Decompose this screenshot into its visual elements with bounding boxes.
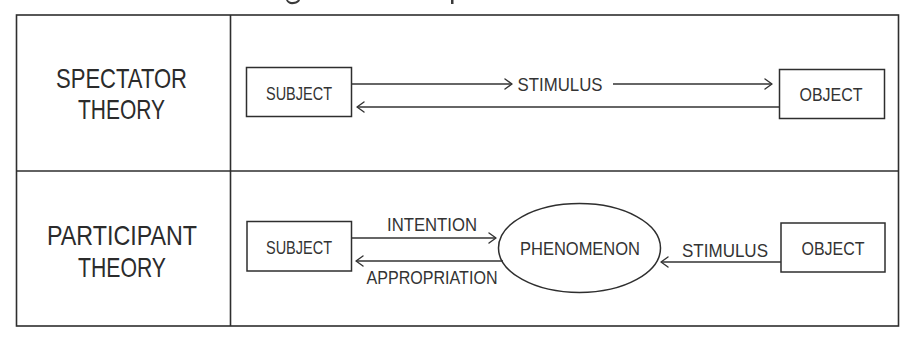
edge-label-stimulus: STIMULUS [518,75,603,95]
edge-label-stimulus: STIMULUS [682,241,768,261]
phenomenon-label: PHENOMENON [520,238,640,259]
object-label: OBJECT [800,84,863,105]
node-subject: SUBJECT [247,222,352,272]
row-label-spectator: SPECTATOR THEORY [56,63,187,125]
cropped-title-fragment [286,0,454,4]
object-label: OBJECT [802,238,865,259]
subject-label: SUBJECT [266,83,332,104]
arrow-object-to-subject [357,102,780,112]
arrow-stimulus: STIMULUS [661,241,781,267]
arrow-appropriation: APPROPRIATION [356,256,503,288]
row-label-participant: PARTICIPANT THEORY [47,220,197,283]
row-label-line2: THEORY [78,252,166,283]
theory-comparison-diagram: SPECTATOR THEORY SUBJECT OBJECT STIMULUS [0,0,915,343]
row-spectator-theory: SPECTATOR THEORY SUBJECT OBJECT STIMULUS [56,63,885,125]
node-phenomenon: PHENOMENON [499,204,661,293]
arrow-intention: INTENTION [352,215,497,243]
node-subject: SUBJECT [247,68,352,117]
row-label-line1: SPECTATOR [56,63,187,94]
edge-label-intention: INTENTION [387,215,477,235]
arrow-subject-to-object: STIMULUS [352,75,773,95]
row-participant-theory: PARTICIPANT THEORY SUBJECT PHENOMENON OB… [47,204,885,293]
subject-label: SUBJECT [266,237,332,258]
row-label-line1: PARTICIPANT [47,220,197,251]
node-object: OBJECT [781,223,885,272]
row-label-line2: THEORY [78,94,165,125]
edge-label-appropriation: APPROPRIATION [367,268,498,288]
node-object: OBJECT [780,70,885,119]
